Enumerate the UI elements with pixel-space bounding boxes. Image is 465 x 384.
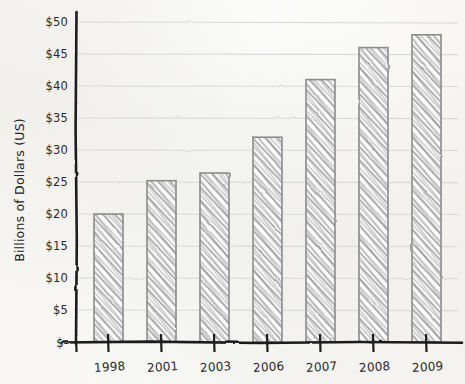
y-tick-label-25: $25 bbox=[45, 175, 68, 189]
y-tick-label-10: $10 bbox=[45, 271, 68, 285]
y-tick-label-20: $20 bbox=[45, 207, 68, 221]
x-tick-2007 bbox=[320, 334, 321, 352]
x-tick-2009 bbox=[426, 334, 427, 352]
x-tick-label-2007: 2007 bbox=[306, 359, 338, 375]
bar-2007[interactable] bbox=[306, 80, 335, 342]
bar-chart-figure: $50 $45 $40 $35 $30 $25 $20 $15 $10 $5 $… bbox=[0, 0, 465, 384]
y-tick-label-40: $40 bbox=[45, 79, 68, 93]
bar-2008[interactable] bbox=[359, 48, 388, 342]
bars-group bbox=[94, 35, 441, 342]
gridline-35 bbox=[76, 118, 458, 119]
x-axis-line bbox=[62, 342, 462, 343]
chart-canvas: $50 $45 $40 $35 $30 $25 $20 $15 $10 $5 $… bbox=[0, 0, 465, 384]
x-tick-label-2003: 2003 bbox=[200, 359, 232, 375]
x-tick-2006 bbox=[267, 334, 268, 352]
y-axis-line bbox=[76, 12, 77, 344]
x-tick-label-2006: 2006 bbox=[253, 359, 285, 375]
bar-2006[interactable] bbox=[253, 137, 282, 342]
gridline-45 bbox=[76, 54, 458, 55]
x-tick-label-1998: 1998 bbox=[94, 359, 126, 375]
y-tick-label-35: $35 bbox=[45, 111, 68, 125]
bar-2001[interactable] bbox=[147, 181, 176, 342]
y-tick-label-0: $- bbox=[56, 336, 68, 350]
x-tick-1998 bbox=[108, 334, 109, 352]
y-tick-label-15: $15 bbox=[45, 239, 68, 253]
gridline-40 bbox=[76, 86, 458, 87]
x-tick-2001 bbox=[161, 334, 162, 352]
x-tick-2008 bbox=[373, 334, 374, 352]
x-tick-labels: 1998 2001 2003 2006 2007 2008 2009 bbox=[94, 359, 444, 375]
y-tick-label-50: $50 bbox=[45, 15, 68, 29]
bar-2009[interactable] bbox=[412, 35, 441, 342]
gridline-50 bbox=[76, 22, 458, 23]
x-tick-label-2009: 2009 bbox=[412, 359, 444, 375]
y-tick-label-30: $30 bbox=[45, 143, 68, 157]
y-axis-title: Billions of Dollars (US) bbox=[12, 118, 27, 262]
bar-1998[interactable] bbox=[94, 214, 123, 342]
y-tick-label-45: $45 bbox=[45, 47, 68, 61]
x-tick-origin bbox=[76, 334, 77, 352]
x-tick-2003 bbox=[214, 334, 215, 352]
bar-2003[interactable] bbox=[200, 173, 229, 342]
y-tick-labels: $50 $45 $40 $35 $30 $25 $20 $15 $10 $5 $… bbox=[45, 15, 68, 350]
y-tick-label-5: $5 bbox=[53, 303, 68, 317]
x-tick-label-2001: 2001 bbox=[147, 359, 179, 375]
x-tick-label-2008: 2008 bbox=[359, 359, 391, 375]
